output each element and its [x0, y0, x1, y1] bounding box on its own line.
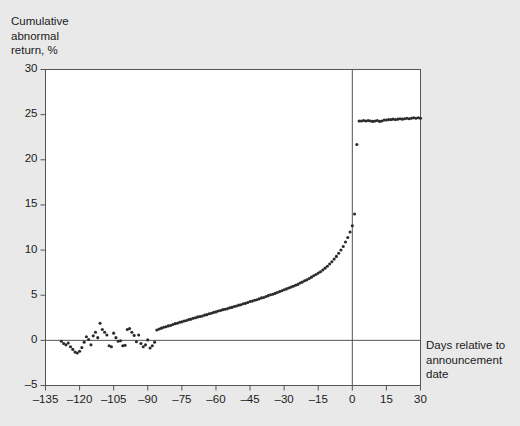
y-tick-label: 20 [4, 152, 38, 164]
data-point [87, 338, 90, 341]
data-point [103, 331, 106, 334]
data-point [146, 338, 149, 341]
y-tick-label: 15 [4, 197, 38, 209]
data-point [71, 348, 74, 351]
data-point [80, 346, 83, 349]
data-point [144, 343, 147, 346]
y-tick-label: 5 [4, 288, 38, 300]
data-point [326, 265, 329, 268]
data-point [119, 339, 122, 342]
data-point [335, 255, 338, 258]
data-point [85, 335, 88, 338]
data-point [353, 212, 356, 215]
data-point [114, 336, 117, 339]
data-point [339, 249, 342, 252]
chart-figure: Cumulative abnormal return, % Days relat… [0, 0, 520, 426]
data-point [349, 230, 352, 233]
y-tick-label: 0 [4, 333, 38, 345]
data-point [124, 344, 127, 347]
data-point [94, 331, 97, 334]
x-axis-title: Days relative to announcement date [426, 338, 518, 382]
data-point [346, 236, 349, 239]
data-point [153, 341, 156, 344]
data-point [151, 344, 154, 347]
data-point [92, 334, 95, 337]
data-point [351, 224, 354, 227]
data-point [101, 328, 104, 331]
data-point [69, 345, 72, 348]
data-point [137, 333, 140, 336]
data-point [149, 346, 152, 349]
y-axis-title: Cumulative abnormal return, % [11, 14, 69, 58]
data-point [139, 342, 142, 345]
data-point [96, 336, 99, 339]
data-point [135, 340, 138, 343]
y-tick-label: 10 [4, 243, 38, 255]
y-tick-label: –5 [4, 378, 38, 390]
data-point [110, 345, 113, 348]
data-point [330, 260, 333, 263]
data-point [89, 343, 92, 346]
data-point [337, 252, 340, 255]
plot-background [46, 70, 421, 386]
y-tick-label: 25 [4, 107, 38, 119]
data-point [67, 342, 70, 345]
data-point [419, 117, 422, 120]
x-tick-label: 30 [396, 393, 446, 405]
data-point [128, 327, 131, 330]
data-point [333, 258, 336, 261]
data-point [105, 333, 108, 336]
data-point [344, 240, 347, 243]
data-point [78, 350, 81, 353]
data-point [83, 341, 86, 344]
y-tick-label: 30 [4, 62, 38, 74]
data-point [60, 340, 63, 343]
data-point [342, 245, 345, 248]
data-point [99, 322, 102, 325]
data-point [133, 334, 136, 337]
data-point [112, 332, 115, 335]
data-point [355, 143, 358, 146]
data-point [328, 263, 331, 266]
data-point [130, 331, 133, 334]
